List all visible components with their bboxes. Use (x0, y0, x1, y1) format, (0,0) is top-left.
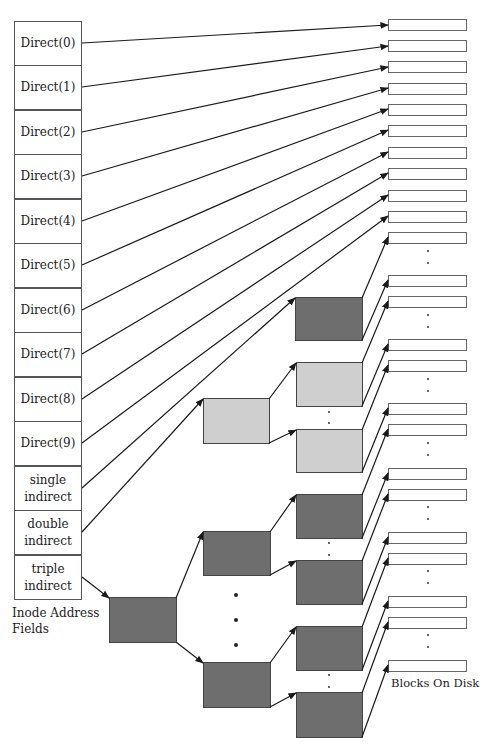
disk-block (389, 618, 467, 629)
disk-block (389, 20, 467, 31)
disk-blocks (389, 20, 467, 672)
inode-field-label: double indirect (24, 516, 71, 550)
inode-field-direct-6: Direct(6) (14, 288, 82, 333)
single-indirect-block (296, 298, 363, 341)
inode-field-direct-1: Direct(1) (14, 65, 82, 110)
inode-field-label: Direct(4) (21, 213, 76, 230)
disk-block (389, 554, 467, 565)
disk-block (389, 233, 467, 244)
double-indirect-l2-block (297, 430, 363, 473)
triple-indirect-l3-block (297, 693, 363, 738)
triple-indirect-l2-block (204, 663, 271, 708)
inode-field-direct-7: Direct(7) (14, 332, 82, 377)
disk-block (389, 425, 467, 436)
disk-block (389, 597, 467, 608)
inode-field-single-indirect: single indirect (14, 466, 82, 511)
inode-field-label: triple indirect (24, 561, 71, 595)
disk-block (389, 212, 467, 223)
disk-caption: Blocks On Disk (391, 676, 479, 692)
index-blocks (110, 298, 363, 738)
triple-indirect-l3-block (297, 561, 363, 605)
triple-indirect-l1-block (110, 598, 177, 643)
inode-field-direct-8: Direct(8) (14, 377, 82, 422)
triple-indirect-l2-block (204, 532, 271, 576)
disk-block (389, 191, 467, 202)
inode-field-label: Direct(0) (21, 35, 76, 52)
inode-field-direct-0: Direct(0) (14, 21, 82, 66)
inode-field-label: Direct(2) (21, 124, 76, 141)
disk-block (389, 297, 467, 308)
inode-field-double-indirect: double indirect (14, 510, 82, 555)
inode-field-direct-2: Direct(2) (14, 110, 82, 155)
disk-block (389, 469, 467, 480)
disk-block (389, 84, 467, 95)
inode-field-label: Direct(3) (21, 168, 76, 185)
inode-field-label: Direct(8) (21, 391, 76, 408)
disk-block (389, 361, 467, 372)
inode-field-direct-3: Direct(3) (14, 154, 82, 199)
disk-block (389, 105, 467, 116)
inode-field-label: single indirect (24, 472, 71, 506)
disk-block (389, 148, 467, 159)
inode-field-triple-indirect: triple indirect (14, 555, 82, 600)
inode-caption: Inode Address Fields (12, 605, 99, 637)
double-indirect-l1-block (204, 399, 270, 444)
disk-block (389, 276, 467, 287)
disk-block (389, 126, 467, 137)
inode-field-label: Direct(1) (21, 79, 76, 96)
disk-block (389, 169, 467, 180)
inode-field-direct-9: Direct(9) (14, 421, 82, 466)
inode-field-direct-5: Direct(5) (14, 243, 82, 288)
inode-field-label: Direct(6) (21, 302, 76, 319)
disk-block (389, 490, 467, 501)
disk-block (389, 41, 467, 52)
disk-ellipsis-dots (427, 250, 429, 648)
triple-indirect-l3-block (297, 627, 363, 671)
disk-block (389, 533, 467, 544)
disk-block (389, 661, 467, 672)
inode-field-label: Direct(7) (21, 346, 76, 363)
disk-block (389, 404, 467, 415)
disk-block (389, 340, 467, 351)
inode-field-label: Direct(9) (21, 435, 76, 452)
double-indirect-l2-block (297, 363, 363, 407)
inode-field-direct-4: Direct(4) (14, 199, 82, 244)
triple-indirect-l3-block (297, 495, 363, 539)
inode-field-label: Direct(5) (21, 257, 76, 274)
disk-block (389, 62, 467, 73)
